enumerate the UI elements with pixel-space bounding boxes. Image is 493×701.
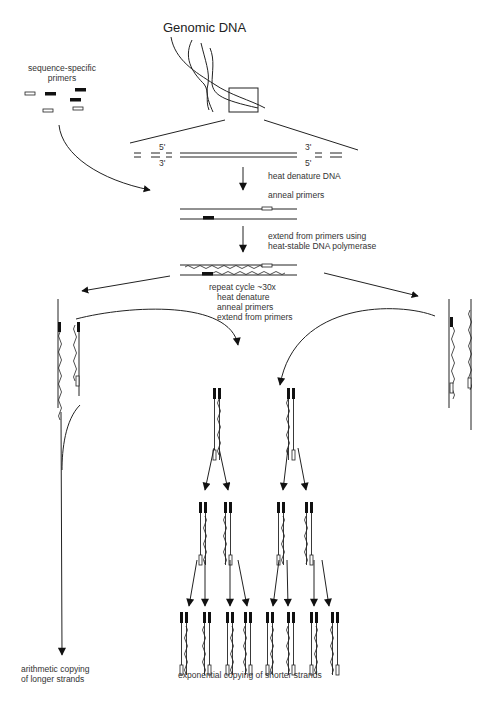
annealed-strands	[180, 207, 297, 220]
repeat-cycle-line4: extend from primers	[217, 313, 293, 323]
end-label-top-right: 3'	[305, 143, 311, 153]
right-long-strands	[449, 299, 472, 430]
gen2-pairs	[199, 502, 313, 565]
genomic-dna-strands	[171, 37, 265, 112]
left-long-strands	[58, 299, 80, 420]
step-anneal-label: anneal primers	[268, 191, 324, 201]
step-extend-label-line2: heat-stable DNA polymerase	[268, 242, 376, 252]
end-label-bottom-left: 3'	[159, 159, 165, 169]
pcr-diagram: Genomic DNA sequence-specific primers 5'…	[0, 0, 493, 701]
diagram-graphics	[0, 0, 493, 701]
zoom-box	[229, 88, 258, 112]
end-label-bottom-right: 5'	[305, 159, 311, 169]
exponential-label: exponential copying of shorter strands	[178, 671, 322, 681]
step-denature-label: heat denature DNA	[268, 172, 341, 182]
gen3-pairs	[180, 612, 339, 675]
arithmetic-label-line2: of longer strands	[21, 675, 84, 685]
free-primers	[25, 88, 86, 112]
target-dna-double-strand	[134, 153, 342, 157]
genomic-dna-title: Genomic DNA	[163, 21, 246, 36]
short-product-pairs	[213, 388, 295, 460]
end-label-top-left: 5'	[159, 143, 165, 153]
primers-label-line2: primers	[22, 74, 102, 84]
extended-strands	[180, 264, 297, 276]
